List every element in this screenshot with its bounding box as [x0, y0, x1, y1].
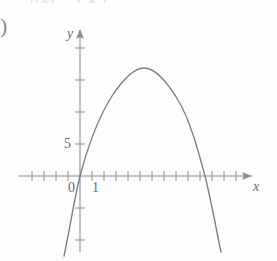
parabola-plot — [0, 0, 277, 261]
origin-label: 0 — [68, 181, 75, 195]
figure-root: f(x) = ( x ) ) — [0, 0, 277, 261]
x-axis-label: x — [253, 180, 259, 194]
x-tick-label-1: 1 — [92, 181, 99, 195]
y-tick-label-5: 5 — [64, 137, 71, 151]
parabola-curve — [64, 68, 221, 256]
y-axis-label: y — [67, 27, 73, 41]
